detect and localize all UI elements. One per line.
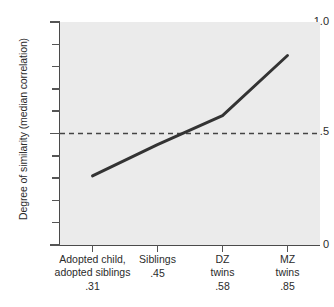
x-category-name: MZ twins (233, 253, 334, 279)
y-major-tick (50, 21, 60, 23)
x-tick (92, 245, 93, 252)
y-minor-tick (52, 177, 60, 179)
x-tick (157, 245, 158, 252)
y-major-tick (50, 244, 60, 246)
x-tick (287, 245, 288, 252)
x-category-label: MZ twins.85 (233, 253, 334, 293)
y-minor-tick (52, 66, 60, 68)
y-minor-tick (52, 222, 60, 224)
y-minor-tick (52, 44, 60, 46)
x-tick (222, 245, 223, 252)
y-axis-title: Degree of similarity (median correlation… (14, 13, 32, 245)
y-minor-tick (52, 155, 60, 157)
x-axis-labels: Adopted child, adopted siblings.31Siblin… (0, 253, 329, 305)
x-axis-line (59, 245, 320, 246)
plot-area (60, 22, 320, 245)
y-major-tick (50, 133, 60, 135)
x-category-value: .31 (38, 280, 148, 293)
y-minor-tick (52, 110, 60, 112)
x-category-value: .85 (233, 280, 334, 293)
y-minor-tick (52, 200, 60, 202)
y-minor-tick (52, 88, 60, 90)
